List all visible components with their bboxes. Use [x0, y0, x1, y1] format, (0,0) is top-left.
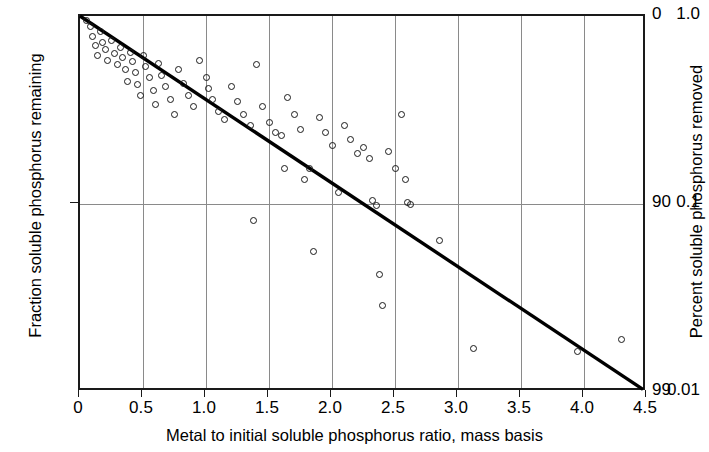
data-point: [228, 83, 235, 90]
data-point: [376, 271, 383, 278]
data-point: [185, 92, 192, 99]
data-point: [240, 111, 247, 118]
data-point: [175, 66, 182, 73]
y-axis-tick-label-right: 90: [652, 192, 709, 212]
x-axis-tick-label: 1.0: [174, 398, 234, 418]
data-point: [99, 39, 106, 46]
data-point: [301, 176, 308, 183]
x-axis-tick-label: 0.5: [111, 398, 171, 418]
data-point: [104, 57, 111, 64]
x-axis-tick-label: 2.5: [363, 398, 423, 418]
x-axis-tick-label: 3.0: [426, 398, 486, 418]
data-point: [119, 54, 126, 61]
data-point: [234, 98, 241, 105]
x-axis-tick: [393, 390, 394, 397]
x-axis-tick: [645, 390, 646, 397]
x-axis-tick: [141, 390, 142, 397]
data-point: [281, 165, 288, 172]
x-axis-tick: [267, 390, 268, 397]
x-axis-tick-label: 4.5: [615, 398, 675, 418]
data-point: [142, 63, 149, 70]
data-point: [205, 85, 212, 92]
y-axis-tick-label-right: 0: [652, 4, 709, 24]
data-point: [129, 58, 136, 65]
data-point: [111, 50, 118, 57]
data-point: [122, 66, 129, 73]
data-point: [266, 119, 273, 126]
data-point: [310, 248, 317, 255]
plot-area: [78, 14, 645, 390]
data-point: [259, 103, 266, 110]
data-point: [402, 176, 409, 183]
data-point: [102, 46, 109, 53]
data-point: [379, 302, 386, 309]
data-point: [209, 96, 216, 103]
chart-figure: Fraction soluble phosphorus remaining Pe…: [0, 0, 709, 452]
x-axis-tick-label: 4.0: [552, 398, 612, 418]
x-axis-tick: [582, 390, 583, 397]
x-axis-tick: [519, 390, 520, 397]
x-axis-tick-label: 1.5: [237, 398, 297, 418]
data-point: [316, 114, 323, 121]
data-point: [398, 111, 405, 118]
x-axis-tick: [78, 390, 79, 397]
data-point: [247, 122, 254, 129]
data-point: [341, 122, 348, 129]
data-point: [306, 165, 313, 172]
data-point: [124, 78, 131, 85]
data-point: [94, 52, 101, 59]
x-axis-tick-label: 0: [48, 398, 108, 418]
data-point: [385, 148, 392, 155]
y-axis-title-left: Fraction soluble phosphorus remaining: [26, 11, 45, 381]
data-point: [253, 61, 260, 68]
data-point: [167, 96, 174, 103]
x-axis-title: Metal to initial soluble phosphorus rati…: [0, 426, 709, 445]
data-point: [574, 348, 581, 355]
data-point: [291, 111, 298, 118]
data-point: [284, 94, 291, 101]
data-point: [134, 81, 141, 88]
data-point: [196, 57, 203, 64]
data-point: [278, 132, 285, 139]
data-point: [366, 155, 373, 162]
x-axis-tick-label: 2.0: [300, 398, 360, 418]
x-axis-tick-label: 3.5: [489, 398, 549, 418]
y-axis-tick: [70, 202, 78, 203]
data-point: [89, 33, 96, 40]
data-point: [215, 108, 222, 115]
data-point: [108, 37, 115, 44]
data-point: [392, 165, 399, 172]
data-point: [114, 61, 121, 68]
x-axis-tick: [204, 390, 205, 397]
data-point: [140, 52, 147, 59]
data-point: [373, 202, 380, 209]
data-point: [250, 217, 257, 224]
data-point: [152, 101, 159, 108]
data-point: [322, 129, 329, 136]
data-point: [117, 44, 124, 51]
data-point: [190, 103, 197, 110]
y-axis-tick-label-right: 99: [652, 380, 709, 400]
data-point: [335, 189, 342, 196]
data-point: [329, 142, 336, 149]
data-point: [137, 92, 144, 99]
data-point: [171, 111, 178, 118]
data-point: [87, 23, 94, 30]
data-point: [155, 60, 162, 67]
scatter-points: [80, 16, 643, 388]
x-axis-tick: [456, 390, 457, 397]
data-point: [203, 74, 210, 81]
data-point: [436, 237, 443, 244]
data-point: [180, 80, 187, 87]
data-point: [92, 42, 99, 49]
data-point: [150, 87, 157, 94]
data-point: [297, 126, 304, 133]
data-point: [618, 336, 625, 343]
data-point: [470, 345, 477, 352]
data-point: [97, 28, 104, 35]
data-point: [132, 69, 139, 76]
data-point: [347, 136, 354, 143]
data-point: [158, 72, 165, 79]
x-axis-tick: [330, 390, 331, 397]
data-point: [162, 83, 169, 90]
